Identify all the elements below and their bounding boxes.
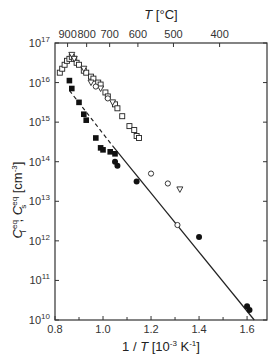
plot-frame (55, 43, 267, 320)
x-tick-label: 0.8 (47, 323, 62, 335)
part: ] (196, 339, 200, 354)
y-tick-label: 1015 (29, 114, 51, 128)
open-square-marker (132, 128, 137, 133)
open-square-marker (115, 106, 120, 111)
open-circle-marker (148, 171, 153, 176)
filled-square-marker (112, 151, 118, 157)
part: ] (10, 162, 25, 166)
sub: i (19, 230, 28, 232)
filled-circle-marker (114, 163, 120, 169)
top-x-tick-label: 500 (164, 28, 182, 40)
chart: 0.81.01.21.41.69008007006005004001010101… (0, 0, 279, 362)
x-tick-label: 1.6 (239, 323, 254, 335)
filled-square-marker (67, 78, 73, 84)
filled-square-marker (100, 147, 106, 153)
open-square-marker (127, 124, 132, 129)
x-tick-label: 1.2 (143, 323, 158, 335)
open-square-marker (137, 135, 142, 140)
unit: [°C] (152, 7, 177, 22)
sup: eq (10, 197, 19, 206)
filled-square-marker (69, 86, 75, 92)
filled-square-marker (81, 111, 87, 117)
y-tick-label: 1013 (29, 193, 51, 207)
plot-axes: 0.81.01.21.41.69008007006005004001010101… (29, 28, 267, 335)
y-tick-label: 1014 (29, 154, 51, 168)
filled-square-marker (83, 117, 89, 123)
data-points (57, 52, 252, 313)
exponent: 15 (41, 114, 50, 123)
open-circle-marker (165, 181, 170, 186)
part: 1 / (122, 339, 140, 354)
exponent: 13 (41, 193, 50, 202)
y-tick-label: 1012 (29, 233, 51, 247)
exponent: 17 (41, 35, 50, 44)
filled-square-marker (107, 149, 113, 155)
open-circle-marker (105, 96, 110, 101)
filled-circle-marker (196, 234, 202, 240)
fit-lines (69, 90, 254, 320)
x-tick-label: 1.0 (95, 323, 110, 335)
exponent: 11 (42, 272, 51, 281)
part: K (177, 339, 190, 354)
top-x-tick-label: 900 (58, 28, 76, 40)
x-tick-label: 1.4 (191, 323, 206, 335)
open-circle-marker (93, 84, 98, 89)
y-tick-label: 1016 (29, 75, 51, 89)
open-triangle-marker (177, 187, 183, 193)
solid-fit-line (113, 146, 255, 320)
open-triangle-marker (88, 80, 94, 86)
y-axis-title: Ceqi, Ceqs [cm-3] (10, 162, 28, 239)
filled-square-marker (93, 135, 99, 141)
part: [cm (10, 172, 25, 197)
exponent: 14 (41, 154, 50, 163)
top-x-tick-label: 400 (210, 28, 228, 40)
open-circle-marker (175, 222, 180, 227)
sub: s (19, 205, 28, 209)
exponent: 12 (41, 233, 50, 242)
part: , (10, 215, 25, 222)
y-tick-label: 1011 (29, 272, 50, 286)
exponent: 10 (41, 312, 50, 321)
part: [10 (148, 339, 170, 354)
filled-circle-marker (246, 307, 252, 313)
axis-labels: T [°C]1 / T [10-3 K-1]Ceqi, Ceqs [cm-3] (10, 7, 200, 354)
exponent: 16 (41, 75, 50, 84)
top-x-tick-label: 600 (129, 28, 147, 40)
top-axis-title: T [°C] (144, 7, 177, 22)
x-axis-title: 1 / T [10-3 K-1] (122, 339, 200, 354)
filled-circle-marker (134, 179, 140, 185)
top-x-tick-label: 700 (100, 28, 118, 40)
open-square-marker (120, 114, 125, 119)
filled-square-marker (76, 100, 82, 106)
y-tick-label: 1017 (29, 35, 51, 49)
top-x-tick-label: 800 (77, 28, 95, 40)
